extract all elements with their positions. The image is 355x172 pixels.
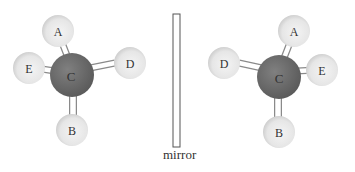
chirality-diagram: A E D B C A D E B C mirror — [0, 0, 355, 172]
atom-e: E — [13, 52, 45, 84]
svg-text:C: C — [67, 69, 76, 84]
svg-text:B: B — [275, 126, 283, 140]
bond-c-d-right — [239, 63, 262, 68]
left-molecule: A E D B C — [13, 15, 146, 146]
central-atom-c-right: C — [257, 55, 301, 99]
atom-b-right: B — [263, 116, 295, 148]
atom-d: D — [114, 47, 146, 79]
svg-text:A: A — [54, 25, 63, 39]
right-molecule: A D E B C — [208, 15, 338, 148]
svg-text:B: B — [68, 124, 76, 138]
svg-text:E: E — [25, 62, 32, 76]
atom-a: A — [42, 15, 74, 47]
mirror-label: mirror — [163, 147, 196, 163]
central-atom-c: C — [50, 53, 94, 97]
svg-text:E: E — [318, 64, 325, 78]
atom-e-right: E — [306, 54, 338, 86]
bond-c-d — [90, 63, 115, 68]
svg-text:C: C — [275, 71, 284, 86]
svg-text:D: D — [220, 57, 229, 71]
svg-text:A: A — [290, 25, 299, 39]
atom-d-right: D — [208, 47, 240, 79]
atom-a-right: A — [278, 15, 310, 47]
mirror — [173, 14, 180, 147]
svg-text:D: D — [126, 57, 135, 71]
atom-b: B — [56, 114, 88, 146]
